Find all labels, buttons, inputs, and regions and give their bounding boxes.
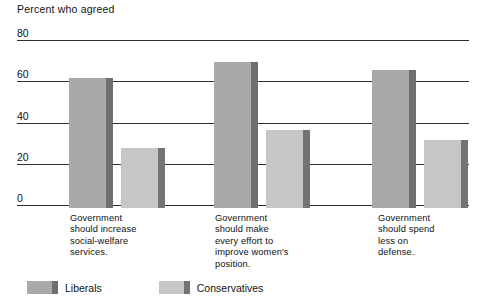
category-label-line: social-welfare [70,236,137,247]
legend-swatch-shadow-icon [184,281,190,294]
y-tick-label-80: 80 [17,27,43,39]
bar-shadow [461,140,468,208]
chart-legend: Liberals Conservatives [27,281,263,294]
bar-shadow [409,70,416,208]
bar-face [424,140,461,208]
category-label-line: should increase [70,224,137,235]
category-label-line: less on [378,236,435,247]
legend-item-conservatives: Conservatives [159,281,264,294]
bar-shadow [106,78,113,208]
category-label-line: every effort to [215,236,289,247]
bar-liberals-1 [214,62,258,208]
legend-item-liberals: Liberals [27,281,102,294]
category-label-1: Governmentshould makeevery effort toimpr… [215,213,289,270]
category-label-line: should spend [378,224,435,235]
gridline-80 [17,40,469,41]
legend-swatch-liberals [27,281,58,294]
chart-title: Percent who agreed [17,3,115,15]
bar-face [121,148,158,208]
category-label-line: improve women's [215,247,289,258]
category-label-line: should make [215,224,289,235]
category-label-line: Government [70,213,137,224]
bar-face [69,78,106,208]
bar-conservatives-1 [266,130,310,208]
category-label-line: Government [378,213,435,224]
bar-liberals-0 [69,78,113,208]
legend-swatch-conservatives [159,281,190,294]
legend-swatch-face-icon [159,281,184,294]
category-label-line: Government [215,213,289,224]
bar-shadow [158,148,165,208]
bar-shadow [251,62,258,208]
category-label-line: position. [215,259,289,270]
category-label-line: services. [70,247,137,258]
legend-label-liberals: Liberals [65,282,102,294]
legend-label-conservatives: Conservatives [197,282,264,294]
bar-face [266,130,303,208]
legend-swatch-face-icon [27,281,52,294]
bar-face [372,70,409,208]
bar-shadow [303,130,310,208]
bar-liberals-2 [372,70,416,208]
bar-face [214,62,251,208]
bar-conservatives-0 [121,148,165,208]
bar-chart: Percent who agreed 80 60 40 20 0 Governm… [0,0,486,305]
category-label-0: Governmentshould increasesocial-welfares… [70,213,137,259]
bar-conservatives-2 [424,140,468,208]
plot-area [17,40,469,208]
category-label-2: Governmentshould spendless ondefense. [378,213,435,259]
legend-swatch-shadow-icon [52,281,58,294]
category-label-line: defense. [378,247,435,258]
